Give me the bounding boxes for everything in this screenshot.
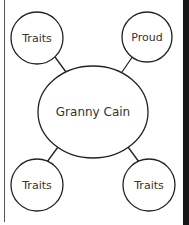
connector-bottom-left (47, 147, 58, 162)
node-bottom-left-label: Traits (22, 179, 51, 192)
diagram-page: Traits Proud Granny Cain Traits Traits (0, 0, 189, 225)
node-top-left-label: Traits (22, 32, 51, 45)
connector-top-right (122, 56, 133, 72)
node-top-right-label: Proud (131, 31, 162, 44)
right-edge-strip (183, 0, 189, 225)
connector-bottom-right (128, 147, 139, 162)
connector-top-left (55, 57, 66, 72)
center-node-label: Granny Cain (56, 105, 130, 119)
node-bottom-right-label: Traits (134, 179, 163, 192)
